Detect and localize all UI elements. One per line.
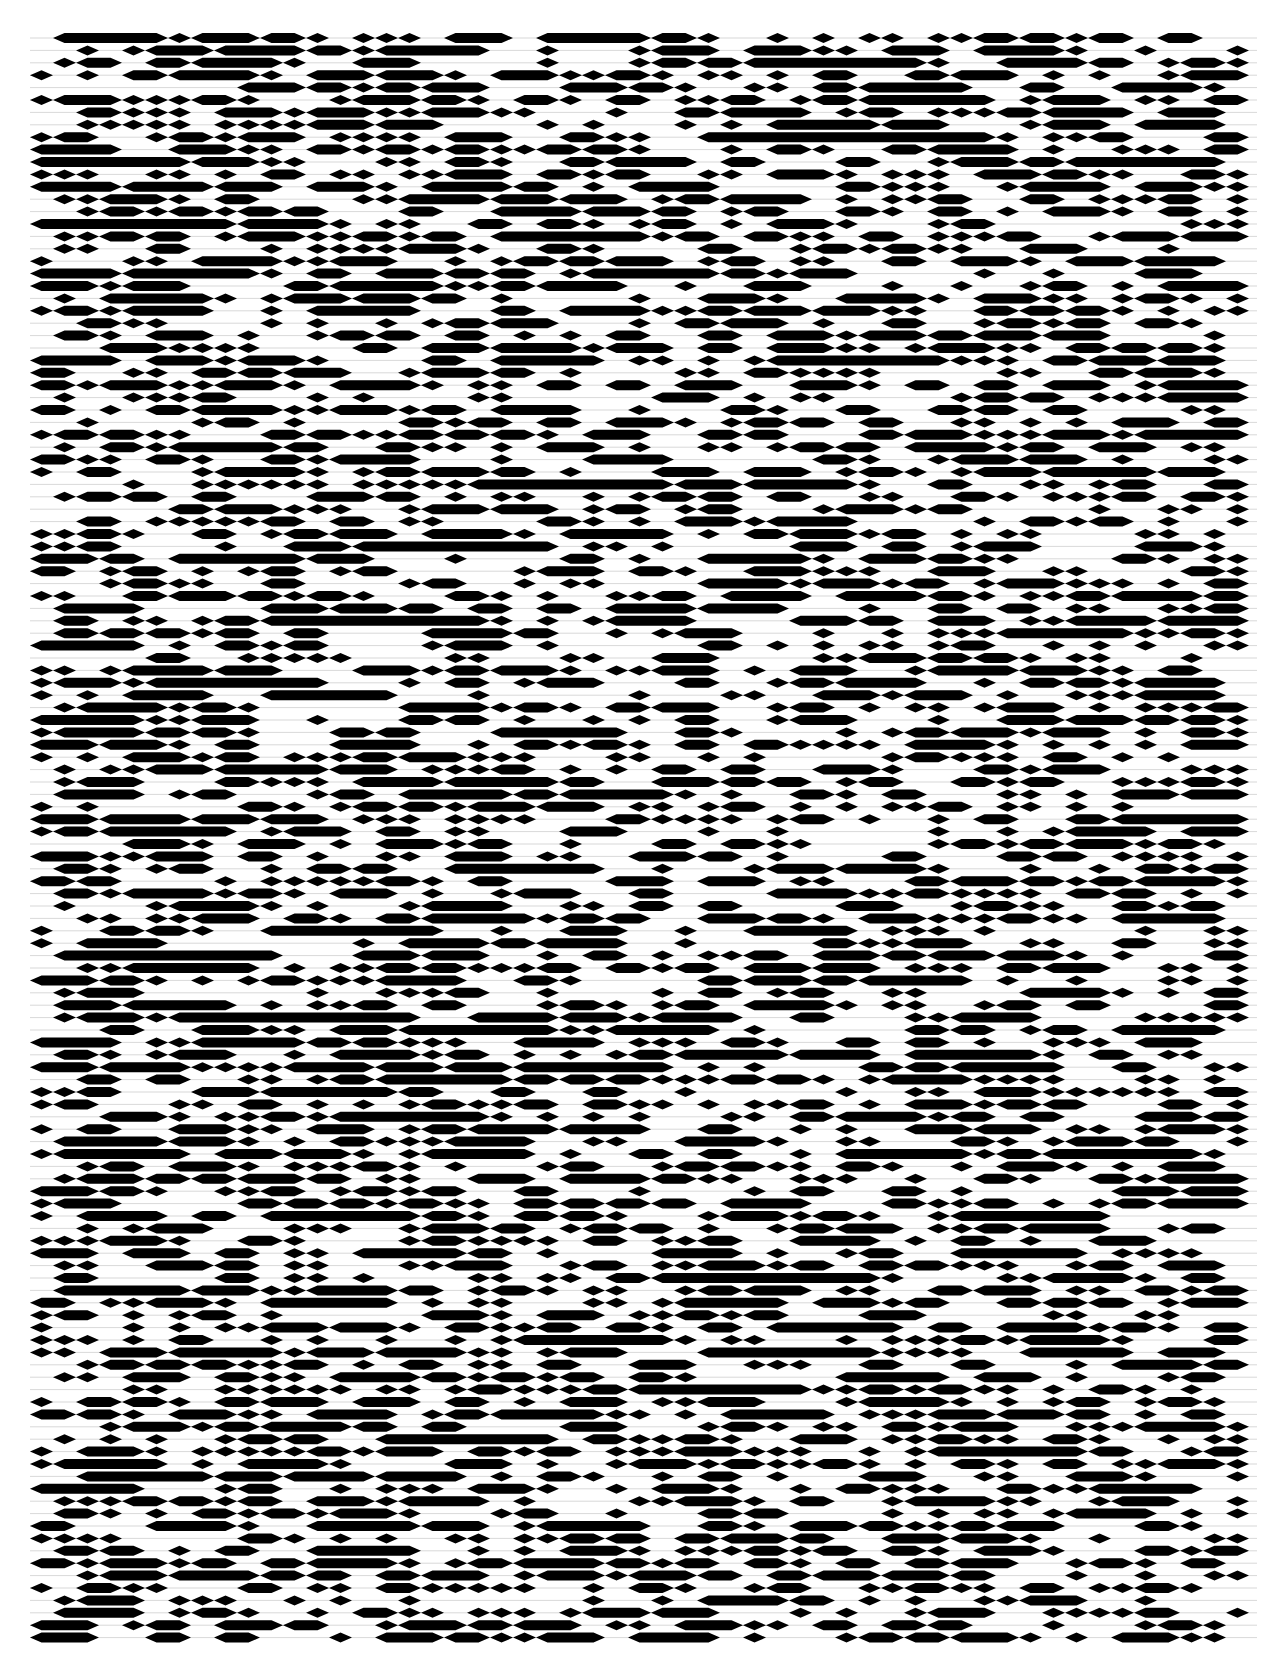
pattern-marks (30, 33, 1249, 1643)
encoded-pattern (0, 0, 1283, 1674)
